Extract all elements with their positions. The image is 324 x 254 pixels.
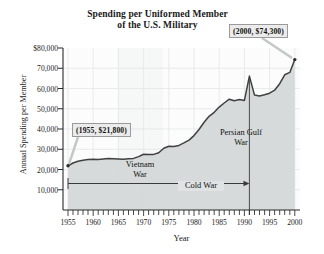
y-tick-label-30000: 30,000 [6, 145, 58, 154]
callout-1955-label: (1955, $21,800) [72, 123, 131, 137]
chart-title: Spending per Uniformed Member of the U.S… [60, 9, 255, 31]
y-tick-label-80000: $80,000 [6, 44, 58, 53]
x-tick-label-2000: 2000 [280, 218, 310, 227]
datapoint-1955 [66, 164, 69, 167]
y-tick-label-20000: 20,000 [6, 166, 58, 175]
chart-title-line1: Spending per Uniformed Member [60, 9, 255, 20]
persian-gulf-war-label-line2: War [205, 138, 277, 148]
x-axis-minor-ticks [68, 210, 295, 216]
y-tick-label-60000: 60,000 [6, 85, 58, 94]
persian-gulf-war-label-line1: Persian Gulf [205, 128, 277, 138]
x-axis-title: Year [63, 233, 300, 243]
persian-gulf-war-label: Persian Gulf War [205, 128, 277, 148]
y-axis-ticks [58, 48, 63, 190]
vietnam-war-label-line2: War [112, 170, 168, 180]
chart-title-line2: of the U.S. Military [60, 20, 255, 31]
y-tick-label-50000: 50,000 [6, 105, 58, 114]
chart-figure: Spending per Uniformed Member of the U.S… [0, 0, 324, 254]
y-tick-label-40000: 40,000 [6, 125, 58, 134]
y-tick-label-70000: 70,000 [6, 64, 58, 73]
cold-war-label: Cold War [178, 181, 224, 191]
datapoint-2000 [293, 58, 296, 61]
y-axis-title: Annual Spending per Member [19, 55, 28, 195]
vietnam-war-label-line1: Vietnam [112, 160, 168, 170]
vietnam-war-label: Vietnam War [112, 160, 168, 180]
callout-2000-label: (2000, $74,300) [229, 24, 288, 38]
y-tick-label-10000: 10,000 [6, 186, 58, 195]
